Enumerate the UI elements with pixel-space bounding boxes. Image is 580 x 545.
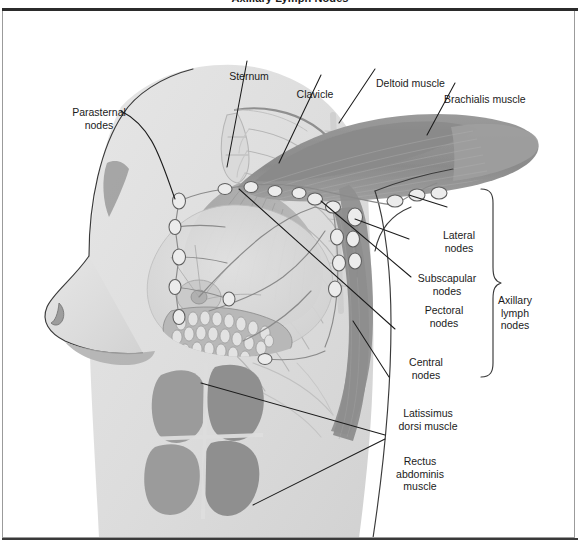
label-deltoid-muscle: Deltoid muscle xyxy=(376,52,445,115)
node-thoracic xyxy=(258,354,272,365)
node-lateral xyxy=(431,187,447,199)
node-subscapular xyxy=(347,231,360,247)
page-title: Axillary Lymph Nodes xyxy=(0,0,580,4)
node-parasternal xyxy=(169,280,181,295)
figure-frame: Parasternalnodes Sternum Clavicle Deltoi… xyxy=(2,11,575,538)
bottom-rule xyxy=(2,538,578,540)
node-apical xyxy=(268,186,282,197)
label-axillary-lymph-nodes: Axillarylymphnodes xyxy=(485,269,545,357)
node-apical xyxy=(218,184,232,195)
label-rectus-abdominis-muscle: Rectusabdominismuscle xyxy=(381,430,459,518)
label-clavicle: Clavicle xyxy=(275,63,355,126)
node-central xyxy=(333,255,346,271)
node-apical xyxy=(292,188,306,199)
label-parasternal-nodes: Parasternalnodes xyxy=(39,81,159,156)
node-parasternal xyxy=(173,249,186,265)
node-parasternal xyxy=(173,310,185,325)
node-central xyxy=(329,281,342,297)
node-lateral xyxy=(387,195,403,207)
node-apical xyxy=(244,182,258,193)
node-pectoral xyxy=(308,193,323,205)
figure-page: Axillary Lymph Nodes xyxy=(0,0,580,545)
node-central xyxy=(331,229,344,245)
brachialis-muscle-mass xyxy=(451,124,539,181)
node-parasternal xyxy=(169,220,181,235)
node-thoracic xyxy=(223,292,235,306)
figure-title-band: Axillary Lymph Nodes xyxy=(0,0,580,8)
node-subscapular xyxy=(348,208,363,226)
node-subscapular xyxy=(349,253,362,269)
label-brachialis-muscle: Brachialis muscle xyxy=(444,68,526,131)
node-parasternal xyxy=(173,193,186,209)
